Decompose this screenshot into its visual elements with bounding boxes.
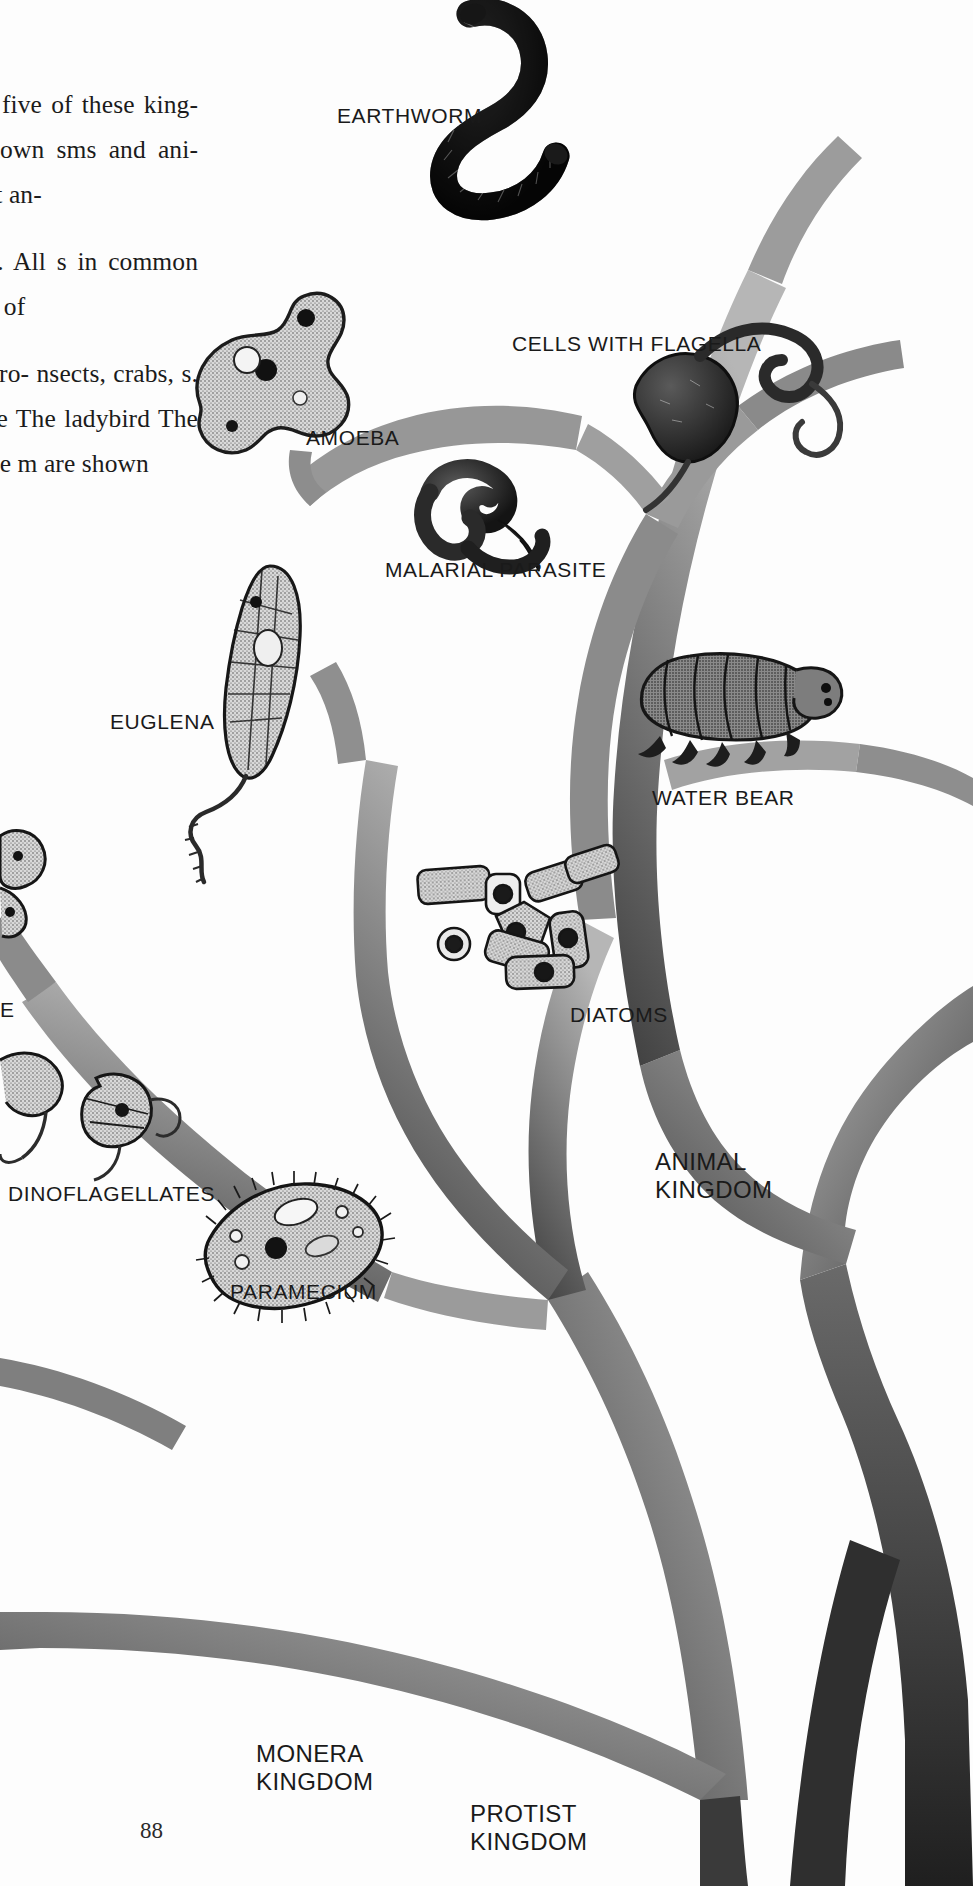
animal-kingdom-line1: ANIMAL [655, 1148, 772, 1176]
label-protist-kingdom: PROTIST KINGDOM [470, 1800, 587, 1856]
label-malarial-parasite: MALARIAL PARASITE [385, 558, 606, 582]
protist-kingdom-line1: PROTIST [470, 1800, 587, 1828]
label-amoeba: AMOEBA [306, 426, 399, 450]
label-monera-kingdom: MONERA KINGDOM [256, 1740, 373, 1796]
protist-kingdom-line2: KINGDOM [470, 1828, 587, 1856]
trunk-lower-left-edge [790, 1540, 900, 1886]
animal-kingdom-line2: KINGDOM [655, 1176, 772, 1204]
organism-sponge [0, 831, 45, 937]
body-paragraph-1: ngs into five of these king- —are shown … [0, 82, 198, 217]
label-dinoflagellates: DINOFLAGELLATES [8, 1182, 215, 1206]
label-paramecium: PARAMECIUM [230, 1280, 377, 1304]
page-number: 88 [140, 1818, 163, 1844]
label-diatoms: DIATOMS [570, 1003, 668, 1027]
branch-lower-left-stub [0, 1358, 186, 1450]
body-paragraph-2: r groups. All s in common one kind of [0, 239, 198, 329]
label-cells-with-flagella: CELLS WITH FLAGELLA [512, 332, 761, 356]
body-paragraph-3: her. Arthro- nsects, crabs, s. There are… [0, 351, 198, 486]
label-animal-kingdom: ANIMAL KINGDOM [655, 1148, 772, 1204]
branch-earthworm [748, 136, 862, 284]
organism-malarial-parasite [423, 469, 543, 571]
branch-paramecium [384, 1272, 548, 1330]
branch-waterbear-outer [856, 744, 973, 806]
branch-protist-base [700, 1796, 748, 1886]
label-earthworm: EARTHWORM [337, 104, 482, 128]
label-water-bear: WATER BEAR [652, 786, 795, 810]
label-sponge-partial: E [0, 998, 15, 1022]
body-text-column: ngs into five of these king- —are shown … [0, 82, 198, 508]
monera-kingdom-line1: MONERA [256, 1740, 373, 1768]
branch-euglena-tip [310, 662, 366, 764]
book-page: ngs into five of these king- —are shown … [0, 0, 973, 1886]
monera-kingdom-line2: KINGDOM [256, 1768, 373, 1796]
label-euglena: EUGLENA [110, 710, 215, 734]
